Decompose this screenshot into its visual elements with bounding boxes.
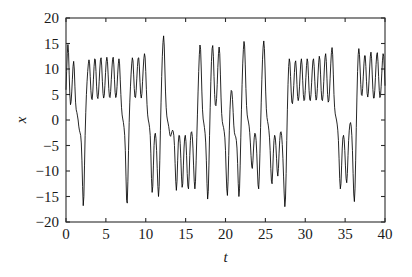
y-tick-label: 15 [44, 36, 59, 52]
y-tick-label: 20 [44, 10, 59, 26]
y-tick-label: 0 [52, 112, 60, 128]
x-tick-label: 15 [178, 226, 193, 242]
x-tick-label: 10 [138, 226, 153, 242]
time-series-chart: −20−15−10−505101520 0510152025303540 t x [0, 0, 412, 277]
x-tick-label: 30 [298, 226, 313, 242]
y-tick-label: −15 [36, 189, 59, 205]
x-tick-label: 35 [338, 226, 353, 242]
figure-container: −20−15−10−505101520 0510152025303540 t x [0, 0, 412, 277]
y-tick-label: 10 [44, 61, 59, 77]
y-tick-label: −20 [36, 214, 59, 230]
y-tick-label: 5 [52, 87, 60, 103]
x-tick-label: 20 [218, 226, 233, 242]
x-tick-label: 5 [102, 226, 110, 242]
x-tick-label: 0 [62, 226, 70, 242]
y-tick-label: −10 [36, 163, 59, 179]
x-tick-label: 40 [378, 226, 393, 242]
x-tick-label: 25 [258, 226, 273, 242]
y-tick-label: −5 [43, 138, 59, 154]
y-axis-title: x [13, 116, 29, 124]
